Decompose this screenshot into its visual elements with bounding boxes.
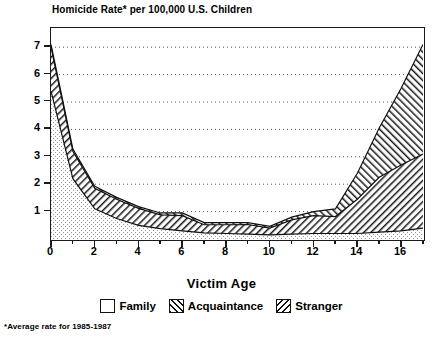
y-tick-mark — [44, 155, 51, 157]
y-tick-label: 3 — [18, 150, 40, 161]
x-axis-title: Victim Age — [0, 276, 443, 291]
y-tick-mark — [44, 100, 51, 102]
x-tick-label: 8 — [213, 246, 237, 257]
plot-inner — [51, 28, 424, 240]
x-tick-label: 14 — [344, 246, 368, 257]
footnote: *Average rate for 1985-1987 — [4, 322, 111, 331]
x-tick-mark — [378, 241, 380, 244]
legend-swatch-stranger — [276, 299, 291, 313]
y-tick-label: 5 — [18, 95, 40, 106]
chart-title: Homicide Rate* per 100,000 U.S. Children — [52, 4, 252, 15]
x-tick-mark — [72, 241, 74, 244]
chart-legend: FamilyAcquaintanceStranger — [0, 299, 443, 313]
legend-item-acquaintance: Acquaintance — [169, 299, 263, 313]
stacked-area-plot — [51, 28, 423, 239]
x-tick-mark — [334, 241, 336, 244]
x-tick-mark — [116, 241, 118, 244]
legend-label: Stranger — [295, 300, 342, 312]
y-tick-label: 2 — [18, 177, 40, 188]
legend-swatch-family — [100, 299, 115, 313]
x-tick-label: 12 — [301, 246, 325, 257]
x-tick-label: 4 — [126, 246, 150, 257]
y-tick-mark — [44, 45, 51, 47]
y-tick-label: 4 — [18, 122, 40, 133]
x-tick-label: 10 — [257, 246, 281, 257]
x-tick-label: 0 — [38, 246, 62, 257]
legend-item-family: Family — [100, 299, 155, 313]
y-tick-mark — [44, 182, 51, 184]
x-tick-label: 6 — [169, 246, 193, 257]
plot-area — [50, 27, 425, 241]
x-tick-mark — [291, 241, 293, 244]
x-tick-mark — [247, 241, 249, 244]
y-tick-mark — [44, 210, 51, 212]
x-tick-mark — [159, 241, 161, 244]
x-tick-label: 2 — [82, 246, 106, 257]
y-tick-mark — [44, 73, 51, 75]
area-acquaintance — [51, 47, 423, 235]
legend-label: Acquaintance — [188, 300, 263, 312]
x-tick-mark — [422, 241, 424, 244]
y-tick-mark — [44, 127, 51, 129]
area-bands — [51, 44, 423, 239]
chart-figure: Homicide Rate* per 100,000 U.S. Children — [0, 0, 443, 341]
legend-item-stranger: Stranger — [276, 299, 342, 313]
legend-label: Family — [119, 300, 155, 312]
y-tick-label: 6 — [18, 68, 40, 79]
x-tick-label: 16 — [388, 246, 412, 257]
legend-swatch-acquaintance — [169, 299, 184, 313]
x-tick-mark — [203, 241, 205, 244]
y-tick-label: 1 — [18, 205, 40, 216]
y-tick-label: 7 — [18, 40, 40, 51]
